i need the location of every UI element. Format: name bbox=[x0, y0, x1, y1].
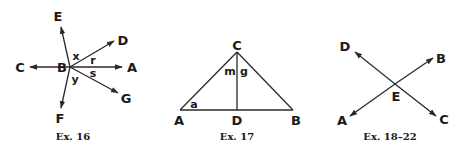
angle-label-s: s bbox=[90, 67, 97, 80]
point-label-c: C bbox=[439, 112, 449, 127]
point-label-c: C bbox=[232, 38, 242, 53]
point-label-d: D bbox=[232, 113, 243, 128]
segment-ac bbox=[180, 52, 237, 110]
caption-ex17: Ex. 17 bbox=[220, 131, 255, 142]
angle-label-y: y bbox=[71, 73, 78, 86]
angle-label-x: x bbox=[72, 50, 79, 63]
angle-label-g: g bbox=[240, 65, 248, 78]
point-label-g: G bbox=[121, 91, 132, 106]
point-label-e: E bbox=[54, 9, 63, 24]
point-label-b: B bbox=[57, 60, 67, 75]
segment-bc bbox=[237, 52, 293, 110]
point-label-a: A bbox=[127, 60, 137, 75]
ray-ea bbox=[350, 84, 395, 116]
point-label-c: C bbox=[15, 60, 25, 75]
point-label-f: F bbox=[56, 111, 65, 126]
ray-ed bbox=[355, 52, 395, 84]
point-label-b: B bbox=[436, 51, 446, 66]
point-label-d: D bbox=[340, 39, 351, 54]
ray-ec bbox=[395, 84, 436, 116]
ray-eb bbox=[395, 58, 433, 84]
point-label-d: D bbox=[118, 33, 129, 48]
geometry-exercises-figure: E D C B A G F x r s y Ex. 16 C A D B m g… bbox=[0, 0, 461, 154]
angle-label-a: a bbox=[190, 98, 197, 111]
point-label-b: B bbox=[291, 113, 301, 128]
figure-ex16: E D C B A G F x r s y Ex. 16 bbox=[15, 9, 137, 142]
figure-ex17: C A D B m g a Ex. 17 bbox=[174, 38, 301, 142]
angle-label-r: r bbox=[90, 54, 96, 67]
caption-ex18-22: Ex. 18–22 bbox=[363, 131, 416, 142]
angle-label-m: m bbox=[224, 65, 235, 78]
caption-ex16: Ex. 16 bbox=[56, 131, 91, 142]
figure-ex18-22: D B E A C Ex. 18–22 bbox=[337, 39, 449, 142]
point-label-e: E bbox=[392, 89, 401, 104]
point-label-a: A bbox=[337, 113, 347, 128]
point-label-a: A bbox=[174, 113, 184, 128]
